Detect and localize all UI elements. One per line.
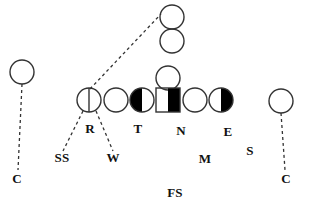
- label-c-left: C: [12, 172, 22, 185]
- label-fs: FS: [167, 186, 183, 199]
- connector-right-corner-to-c: [281, 113, 285, 170]
- half-fill: [221, 88, 233, 112]
- connector-r-to-slot-receiver: [90, 14, 161, 89]
- player-quarterback[interactable]: [156, 66, 180, 90]
- label-r: R: [85, 122, 95, 135]
- label-ss: SS: [55, 151, 70, 164]
- label-n: N: [176, 124, 186, 137]
- player-markers: [10, 5, 293, 113]
- circle-outline: [160, 29, 184, 53]
- player-line-guard-right[interactable]: [183, 88, 207, 112]
- formation-canvas: [0, 0, 309, 211]
- player-line-e[interactable]: [209, 88, 233, 112]
- player-line-r[interactable]: [77, 88, 101, 112]
- circle-outline: [10, 60, 34, 84]
- player-left-corner[interactable]: [10, 60, 34, 84]
- circle-outline: [104, 88, 128, 112]
- circle-outline: [156, 66, 180, 90]
- half-fill-right: [168, 88, 180, 112]
- label-c-right: C: [281, 172, 291, 185]
- player-right-corner[interactable]: [269, 89, 293, 113]
- player-slot-receiver-top[interactable]: [160, 5, 184, 29]
- half-fill: [130, 88, 142, 112]
- circle-outline: [160, 5, 184, 29]
- player-center-n[interactable]: [156, 88, 180, 112]
- label-e: E: [224, 125, 233, 138]
- formation-diagram: RTNESSWMSCCFS: [0, 0, 309, 211]
- label-w: W: [106, 151, 119, 164]
- player-line-guard-left[interactable]: [104, 88, 128, 112]
- connector-left-corner-to-c: [18, 84, 22, 170]
- label-t: T: [134, 122, 143, 135]
- label-s: S: [246, 144, 253, 157]
- circle-outline: [269, 89, 293, 113]
- connector-r-to-w: [96, 111, 113, 151]
- connector-r-to-ss: [63, 111, 83, 151]
- circle-outline: [183, 88, 207, 112]
- label-m: M: [199, 152, 211, 165]
- player-slot-receiver-bottom[interactable]: [160, 29, 184, 53]
- player-line-t[interactable]: [130, 88, 154, 112]
